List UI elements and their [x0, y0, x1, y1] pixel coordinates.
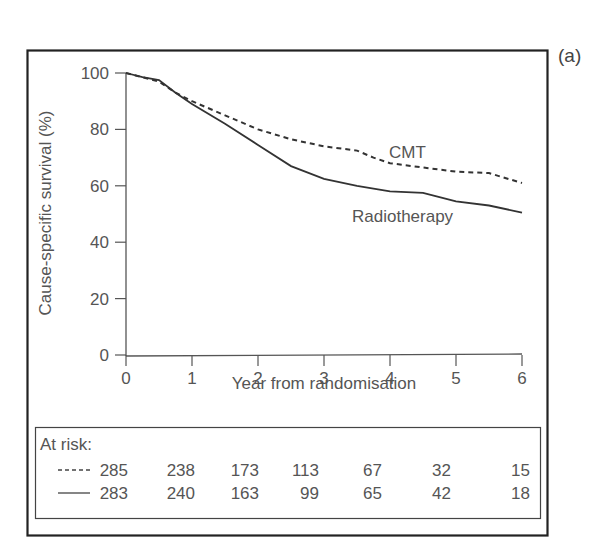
at-risk-count: 283	[100, 484, 128, 503]
y-tick-label: 40	[90, 233, 109, 252]
at-risk-heading: At risk:	[40, 435, 92, 454]
at-risk-count: 238	[167, 461, 195, 480]
y-tick-label: 0	[100, 346, 109, 365]
at-risk-count: 113	[292, 461, 319, 480]
y-tick-label: 20	[90, 290, 109, 309]
at-risk-count: 240	[167, 484, 195, 503]
at-risk-count: 285	[100, 461, 128, 480]
at-risk-count: 67	[363, 461, 382, 480]
y-tick-label: 100	[81, 64, 109, 83]
panel-label: (a)	[558, 45, 581, 66]
at-risk-table: At risk: 285238173113673215 283240163996…	[36, 428, 541, 519]
at-risk-row-cmt: 285238173113673215	[100, 461, 530, 480]
cmt-survival-curve	[126, 73, 522, 183]
plot-axes: 020406080100 0123456	[81, 64, 527, 388]
at-risk-count: 173	[231, 461, 259, 480]
at-risk-count: 18	[511, 484, 530, 503]
y-tick-label: 60	[90, 177, 109, 196]
at-risk-count: 163	[231, 484, 259, 503]
y-ticks: 020406080100	[81, 64, 126, 365]
y-axis-title: Cause-specific survival (%)	[36, 111, 55, 316]
x-tick-label: 0	[121, 369, 130, 388]
radiotherapy-label: Radiotherapy	[352, 207, 454, 226]
y-tick-label: 80	[90, 120, 109, 139]
at-risk-count: 65	[363, 484, 382, 503]
x-axis-title: Year from randomisation	[232, 374, 417, 393]
survival-figure: (a) 020406080100 0123456 Cause-specific …	[0, 0, 597, 550]
x-tick-label: 1	[187, 369, 196, 388]
at-risk-count: 32	[432, 461, 451, 480]
x-tick-label: 5	[451, 369, 460, 388]
at-risk-count: 99	[300, 484, 319, 503]
x-tick-label: 6	[517, 369, 526, 388]
at-risk-count: 15	[511, 461, 530, 480]
cmt-label: CMT	[389, 143, 426, 162]
at-risk-count: 42	[432, 484, 451, 503]
at-risk-row-radiotherapy: 28324016399654218	[100, 484, 530, 503]
radiotherapy-survival-curve	[126, 73, 522, 213]
